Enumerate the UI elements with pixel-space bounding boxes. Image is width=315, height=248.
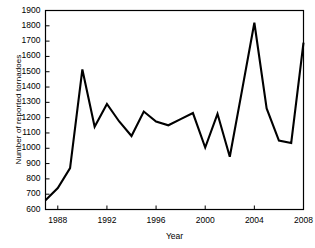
y-tick-label: 900	[11, 159, 41, 168]
x-axis-ticks	[58, 206, 304, 210]
y-tick-label: 1700	[11, 36, 41, 45]
x-tick-label: 2000	[187, 216, 223, 225]
x-tick-label: 2004	[236, 216, 272, 225]
y-tick-label: 600	[11, 205, 41, 214]
y-tick-label: 1500	[11, 67, 41, 76]
y-tick-label: 1800	[11, 21, 41, 30]
y-tick-label: 1400	[11, 82, 41, 91]
x-tick-label: 1996	[138, 216, 174, 225]
tornado-line-chart: Number of reported tornadoes Year 190018…	[0, 0, 314, 248]
y-tick-label: 1300	[11, 97, 41, 106]
data-series-line	[46, 23, 304, 201]
x-axis-title: Year	[45, 231, 304, 241]
y-tick-label: 800	[11, 174, 41, 183]
y-tick-label: 1600	[11, 51, 41, 60]
y-tick-label: 1200	[11, 113, 41, 122]
y-tick-label: 1900	[11, 6, 41, 15]
x-tick-label: 1988	[40, 216, 76, 225]
y-tick-label: 700	[11, 189, 41, 198]
plot-frame	[46, 11, 304, 210]
x-tick-label: 2008	[286, 216, 315, 225]
plot-area	[0, 0, 314, 248]
y-tick-label: 1100	[11, 128, 41, 137]
y-tick-label: 1000	[11, 143, 41, 152]
x-tick-label: 1992	[89, 216, 125, 225]
